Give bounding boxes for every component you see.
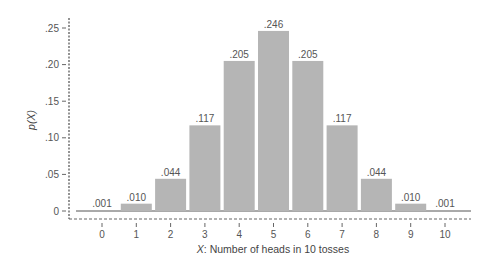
bar <box>258 31 289 211</box>
x-tick-label: 3 <box>202 229 208 240</box>
x-tick-label: 2 <box>168 229 174 240</box>
bar-value-label: .010 <box>401 192 421 203</box>
bars: .001.010.044.117.205.246.205.117.044.010… <box>76 19 471 211</box>
bar-value-label: .044 <box>367 167 387 178</box>
x-tick-label: 10 <box>439 229 451 240</box>
bar-value-label: .205 <box>229 49 249 60</box>
x-axis-title: X: Number of heads in 10 tosses <box>196 243 349 255</box>
x-tick-label: 4 <box>236 229 242 240</box>
binomial-bar-chart: 0.05.10.15.20.25 .001.010.044.117.205.24… <box>0 0 493 272</box>
bar-value-label: .117 <box>333 113 352 124</box>
x-tick-label: 5 <box>271 229 277 240</box>
bar <box>121 204 152 211</box>
x-tick-label: 9 <box>408 229 414 240</box>
bar-value-label: .010 <box>127 192 147 203</box>
y-tick-label: .15 <box>45 96 59 107</box>
y-tick-label: .05 <box>45 169 59 180</box>
x-tick-label: 8 <box>374 229 380 240</box>
y-tick-label: .25 <box>45 23 59 34</box>
bar <box>327 125 358 211</box>
bar-value-label: .001 <box>92 198 112 209</box>
y-tick-label: 0 <box>53 206 59 217</box>
x-tick-label: 1 <box>134 229 140 240</box>
bar <box>292 61 323 211</box>
bar-value-label: .001 <box>435 198 455 209</box>
y-tick-label: .10 <box>45 132 59 143</box>
x-tick-label: 6 <box>305 229 311 240</box>
bar <box>395 204 426 211</box>
y-tick-label: .20 <box>45 59 59 70</box>
y-axis-title: p(X) <box>25 110 37 131</box>
bar <box>189 125 220 211</box>
x-tick-label: 0 <box>99 229 105 240</box>
bar-value-label: .246 <box>264 19 284 30</box>
bar-value-label: .117 <box>196 113 215 124</box>
x-tick-label: 7 <box>339 229 345 240</box>
bar <box>361 179 392 211</box>
bar <box>155 179 186 211</box>
bar <box>224 61 255 211</box>
bar-value-label: .044 <box>161 167 181 178</box>
x-axis: 012345678910 <box>69 219 471 240</box>
y-axis: 0.05.10.15.20.25 <box>45 18 69 219</box>
bar-value-label: .205 <box>298 49 318 60</box>
